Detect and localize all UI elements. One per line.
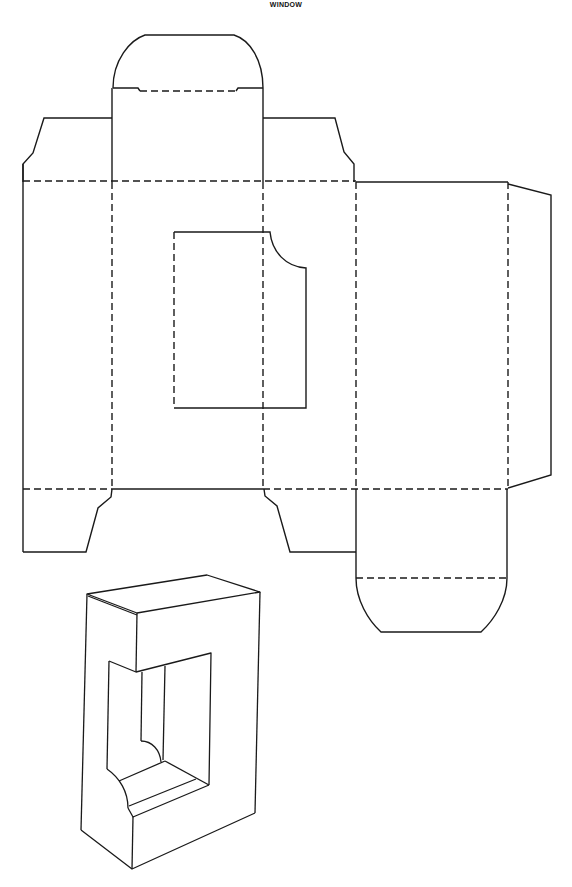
- window-cutout: [174, 232, 306, 408]
- glue-flap: [508, 184, 551, 488]
- top-dust-flap-right: [263, 118, 354, 182]
- top-dust-flap-left: [23, 118, 112, 182]
- assembled-box-illustration: [81, 575, 260, 869]
- bottom-dust-flap-right: [264, 489, 356, 552]
- bottom-dust-flap-left: [23, 489, 112, 552]
- front-panel-top: [112, 88, 263, 182]
- dieline-diagram: [0, 0, 572, 887]
- bottom-tuck-flap: [356, 489, 507, 632]
- top-tuck-flap: [113, 35, 263, 91]
